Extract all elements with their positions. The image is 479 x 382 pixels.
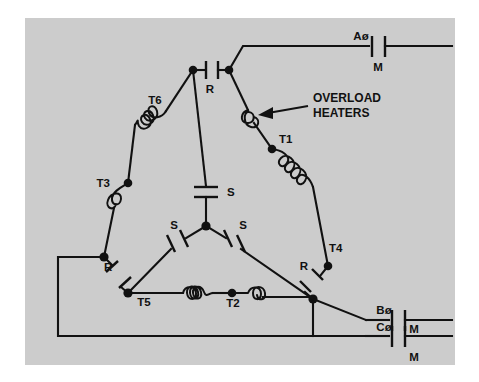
label-m-phase-a: M — [373, 61, 383, 73]
label-m-phase-c: M — [409, 351, 419, 363]
label-phase-a: Aø — [353, 30, 368, 42]
label-phase-c: Cø — [376, 321, 391, 333]
label-terminal-t1: T1 — [279, 133, 293, 145]
label-s-left: S — [170, 219, 178, 231]
label-terminal-t4: T4 — [329, 242, 343, 254]
label-terminal-t3: T3 — [97, 177, 110, 189]
label-r-top: R — [206, 83, 215, 95]
wiring-diagram-canvas: Aø M Bø M Cø M R R R S S S T1 T2 T3 T4 T… — [0, 0, 479, 382]
label-terminal-t6: T6 — [148, 94, 161, 106]
label-s-right: S — [239, 219, 247, 231]
wiring-diagram-figure: Aø M Bø M Cø M R R R S S S T1 T2 T3 T4 T… — [0, 0, 479, 382]
annotation-line-overload: OVERLOAD — [313, 91, 381, 105]
label-terminal-t5: T5 — [137, 296, 151, 308]
label-s-center: S — [227, 186, 235, 198]
label-terminal-t2: T2 — [226, 297, 239, 309]
annotation-line-heaters: HEATERS — [313, 106, 369, 120]
label-phase-b: Bø — [376, 304, 391, 316]
label-m-phase-b: M — [409, 323, 419, 335]
label-r-bottom-right: R — [300, 260, 309, 272]
label-r-bottom-left: R — [104, 261, 113, 273]
